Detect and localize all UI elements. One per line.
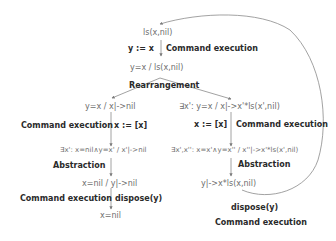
- node-root: ls(x,nil): [143, 28, 172, 38]
- node-left-abs: x=nil / y|->nil: [82, 179, 137, 189]
- label-right-command: x := [x]: [194, 120, 227, 130]
- label-right-step-exec: Command execution: [236, 120, 328, 130]
- label-rearrangement: Rearrangement: [129, 81, 199, 91]
- node-left-rearr: y=x / x|->nil: [85, 102, 136, 112]
- node-right-abs: y|->x*ls(x,nil): [201, 179, 256, 189]
- label-loop-dispose: dispose(y): [231, 203, 278, 213]
- label-top-step: Command execution: [166, 44, 258, 54]
- label-right-abstraction: Abstraction: [238, 160, 290, 170]
- node-after-assign: y=x / ls(x,nil): [130, 63, 183, 73]
- label-loop-step: Command execution: [215, 218, 307, 228]
- node-right-rearr: ∃x': y=x / x|->x'*ls(x',nil): [179, 102, 280, 112]
- node-left-exec: ∃x': x=nil∧y=x' / x'|->nil: [60, 145, 147, 155]
- label-left-command: x := [x]: [114, 121, 147, 131]
- symbolic-execution-diagram: ls(x,nil) y := x Command execution y=x /…: [0, 0, 336, 241]
- label-left-step-dispose: Command execution: [20, 194, 112, 204]
- label-left-dispose: dispose(y): [115, 194, 162, 204]
- label-left-step-exec: Command execution: [21, 121, 113, 131]
- node-left-final: x=nil: [100, 211, 121, 221]
- label-left-abstraction: Abstraction: [53, 161, 105, 171]
- label-top-command: y := x: [128, 44, 154, 54]
- node-right-exec: ∃x',x'': x=x'∧y=x'' / x''|->x'*ls(x',nil…: [171, 145, 298, 155]
